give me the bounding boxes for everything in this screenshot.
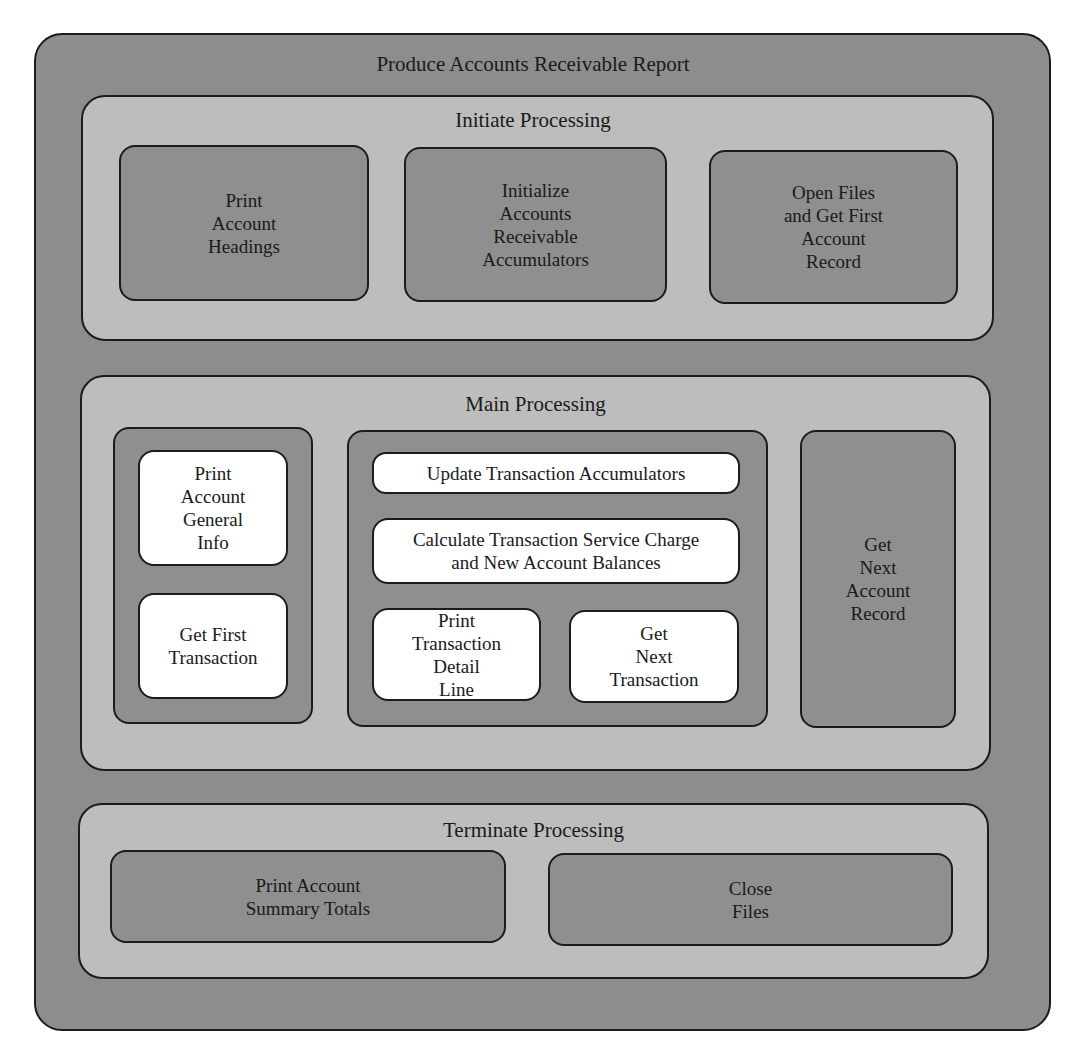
calculate-service-charge-module: Calculate Transaction Service Charge and… [372, 518, 740, 584]
initiate-processing-title: Initiate Processing [0, 108, 1066, 132]
module-label: Initialize Accounts Receivable Accumulat… [482, 179, 589, 271]
get-first-transaction-module: Get First Transaction [138, 593, 288, 699]
module-label: Get First Transaction [168, 623, 257, 669]
open-files-get-first-record-module: Open Files and Get First Account Record [709, 150, 958, 304]
print-account-general-info-module: Print Account General Info [138, 450, 288, 566]
main-processing-title: Main Processing [80, 392, 991, 416]
module-label: Print Transaction Detail Line [412, 609, 501, 701]
diagram-title: Produce Accounts Receivable Report [0, 52, 1066, 76]
update-transaction-accumulators-module: Update Transaction Accumulators [372, 452, 740, 494]
module-label: Calculate Transaction Service Charge and… [413, 528, 699, 574]
get-next-account-record-module: Get Next Account Record [800, 430, 956, 728]
print-account-headings-module: Print Account Headings [119, 145, 369, 301]
module-label: Get Next Transaction [609, 622, 698, 691]
get-next-transaction-module: Get Next Transaction [569, 610, 739, 703]
close-files-module: Close Files [548, 853, 953, 946]
module-label: Get Next Account Record [846, 533, 910, 625]
module-label: Print Account Headings [208, 189, 280, 258]
module-label: Close Files [729, 877, 772, 923]
print-transaction-detail-line-module: Print Transaction Detail Line [372, 608, 541, 701]
module-label: Open Files and Get First Account Record [784, 181, 883, 273]
print-account-summary-totals-module: Print Account Summary Totals [110, 850, 506, 943]
module-label: Print Account Summary Totals [246, 874, 370, 920]
initialize-ar-accumulators-module: Initialize Accounts Receivable Accumulat… [404, 147, 667, 302]
module-label: Update Transaction Accumulators [427, 462, 686, 485]
terminate-processing-title: Terminate Processing [78, 818, 989, 842]
module-label: Print Account General Info [181, 462, 245, 554]
